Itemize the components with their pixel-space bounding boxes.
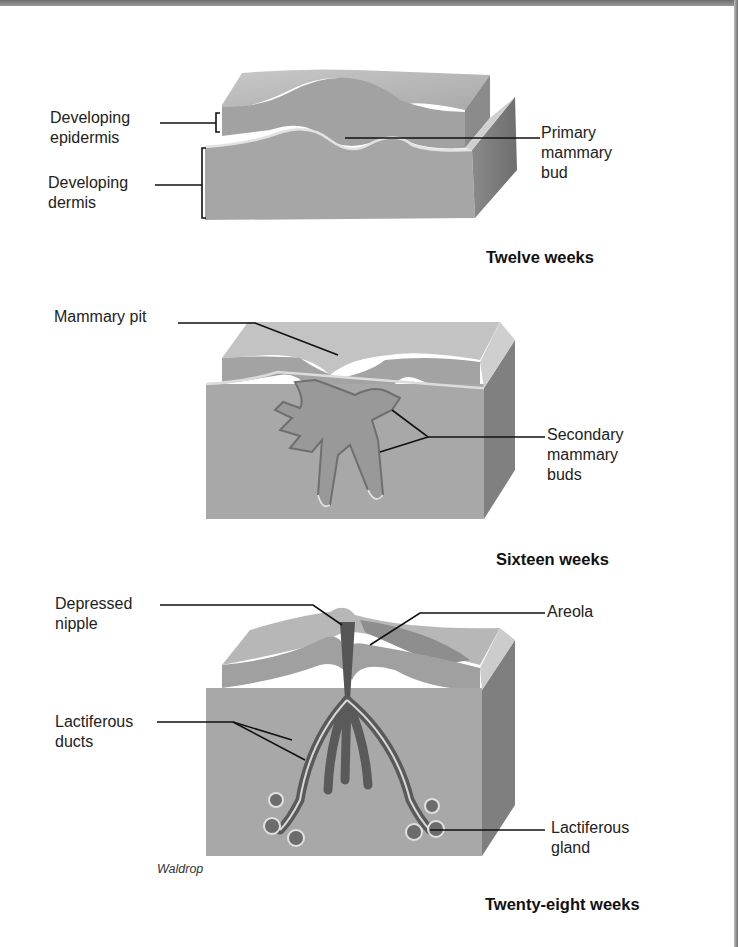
label-lactiferous-gland: Lactiferous gland	[551, 818, 629, 858]
label-depressed-nipple: Depressed nipple	[55, 594, 132, 634]
label-areola: Areola	[547, 602, 593, 622]
panel-twenty-eight-weeks: Depressed nipple Areola Lactiferous duct…	[0, 0, 738, 947]
illustrator-credit: Waldrop	[157, 862, 203, 876]
tissue-block-twenty-eight-weeks	[0, 0, 738, 947]
label-lactiferous-ducts: Lactiferous ducts	[55, 712, 133, 752]
stage-title-twenty-eight-weeks: Twenty-eight weeks	[485, 895, 640, 914]
